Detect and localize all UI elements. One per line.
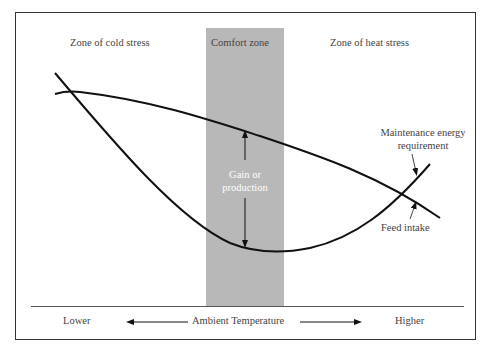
axis-lower-label: Lower — [63, 315, 90, 326]
gain-label-line1: Gain or — [222, 168, 268, 181]
gain-label-line2: production — [222, 181, 268, 194]
feed-intake-label: Feed intake — [381, 222, 430, 233]
maintenance-energy-label: Maintenance energy requirement — [368, 126, 478, 152]
gain-production-label: Gain or production — [222, 168, 268, 194]
axis-higher-label: Higher — [395, 315, 424, 326]
axis-title: Ambient Temperature — [192, 315, 284, 326]
maintenance-label-line2: requirement — [368, 139, 478, 152]
maintenance-label-line1: Maintenance energy — [368, 126, 478, 139]
feed-intake-curve — [55, 92, 440, 218]
maintenance-curve — [55, 73, 430, 252]
